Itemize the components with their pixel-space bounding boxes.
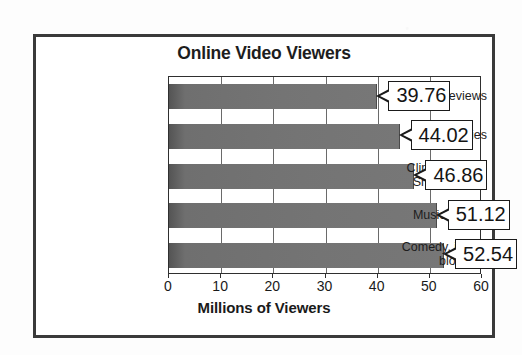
value-callout: 46.86 xyxy=(425,160,487,190)
value-callout: 52.54 xyxy=(455,239,517,269)
x-tick-label: 0 xyxy=(164,278,172,294)
x-axis: 0102030405060 xyxy=(168,274,481,296)
x-axis-title: Millions of Viewers xyxy=(36,299,492,316)
value-callout: 39.76 xyxy=(388,81,450,111)
x-tick-label: 40 xyxy=(369,278,385,294)
x-tick-label: 20 xyxy=(265,278,281,294)
x-tick-label: 30 xyxy=(317,278,333,294)
x-tick-label: 10 xyxy=(212,278,228,294)
x-tick-label: 60 xyxy=(473,278,489,294)
chart-title: Online Video Viewers xyxy=(36,43,492,64)
bar[interactable] xyxy=(169,84,377,109)
value-callout: 44.02 xyxy=(411,120,473,150)
x-tick-label: 50 xyxy=(421,278,437,294)
figure-frame: Online Video Viewers Movie PreviewsNews … xyxy=(33,34,495,338)
value-callout: 51.12 xyxy=(448,200,510,230)
